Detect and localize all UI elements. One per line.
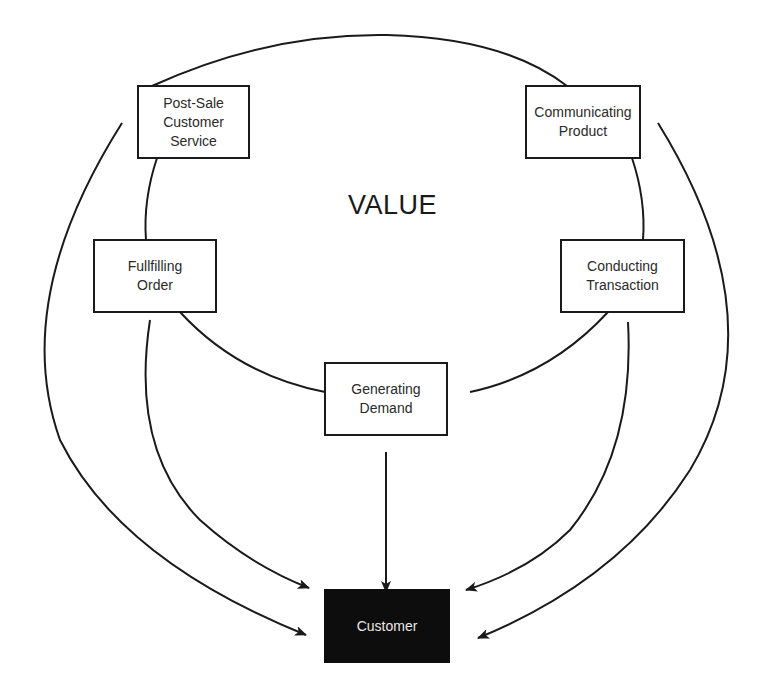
node-label-line: Demand: [351, 399, 420, 418]
arrow-communicating: [478, 123, 728, 638]
arrow-post-sale: [45, 123, 306, 635]
node-communicating-product: Communicating Product: [525, 85, 641, 159]
node-label-line: Customer: [163, 113, 224, 132]
node-conducting-transaction: Conducting Transaction: [560, 239, 685, 313]
node-label-line: Transaction: [586, 276, 659, 295]
node-label-line: Service: [163, 132, 224, 151]
customer-label: Customer: [357, 617, 418, 636]
ring-right-upper: [632, 158, 644, 240]
node-label-line: Order: [128, 276, 182, 295]
ring-left-upper: [145, 158, 157, 240]
node-label-line: Product: [534, 122, 631, 141]
ring-left-lower: [180, 312, 325, 392]
node-label-line: Conducting: [586, 257, 659, 276]
ring-top-arc: [152, 35, 567, 86]
node-label-line: Communicating: [534, 103, 631, 122]
node-label-line: Generating: [351, 380, 420, 399]
node-post-sale-customer-service: Post-Sale Customer Service: [137, 85, 250, 159]
arrow-fulfilling: [146, 320, 309, 588]
node-fulfilling-order: Fullfilling Order: [93, 239, 217, 313]
node-customer: Customer: [324, 589, 450, 663]
node-generating-demand: Generating Demand: [324, 362, 448, 436]
ring-right-lower: [470, 312, 608, 392]
node-label-line: Fullfilling: [128, 257, 182, 276]
value-label: VALUE: [348, 190, 437, 221]
node-label-line: Post-Sale: [163, 94, 224, 113]
